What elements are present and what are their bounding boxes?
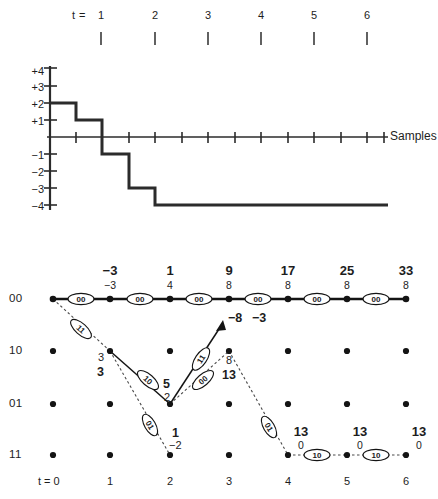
metric-10-t1-primary: 3 xyxy=(98,352,104,363)
metric-10-t1-secondary: 3 xyxy=(97,366,104,379)
metric-11-t6-secondary: 0 xyxy=(406,440,432,451)
metric-01-t2-secondary: 2 xyxy=(164,392,170,403)
trellis-time-axis-label-4: 4 xyxy=(280,476,296,487)
metric-11-t2-secondary: −2 xyxy=(169,440,182,451)
waveform-staircase xyxy=(50,103,388,205)
metric-00-t2-secondary: 4 xyxy=(157,280,183,291)
metric-11-t2-primary: 1 xyxy=(172,427,179,440)
metric-11-t6-primary: 13 xyxy=(406,425,432,438)
branch-bubble-00-b: 00 xyxy=(127,293,153,304)
branch-bubble-10-a: 10 xyxy=(135,367,162,393)
svg-text:00: 00 xyxy=(372,295,381,304)
metric-10-t3-primary: 8 xyxy=(226,355,232,366)
branch-bubble-00-c: 00 xyxy=(186,293,212,304)
arrow-annotation-secondary: −3 xyxy=(252,312,266,325)
trellis-branch-arrowhead xyxy=(216,320,226,331)
svg-text:00: 00 xyxy=(77,295,86,304)
metric-01-t2-primary: 5 xyxy=(163,378,170,391)
metric-00-t6-secondary: 8 xyxy=(393,280,419,291)
branch-bubble-00-a: 00 xyxy=(68,293,94,304)
branch-bubble-00-e: 00 xyxy=(304,293,330,304)
svg-text:10: 10 xyxy=(313,451,322,460)
svg-text:00: 00 xyxy=(254,295,263,304)
branch-bubble-01-a: 01 xyxy=(139,412,160,438)
metric-00-t1-secondary: −3 xyxy=(97,280,123,291)
svg-text:00: 00 xyxy=(313,295,322,304)
trellis-state-label-10: 10 xyxy=(9,345,23,357)
branch-bubble-00-d: 00 xyxy=(245,293,271,304)
metric-10-t3-secondary: 13 xyxy=(222,369,236,382)
metric-00-t1-primary: −3 xyxy=(97,264,123,277)
trellis-time-axis-label-5: 5 xyxy=(339,476,355,487)
metric-11-t4-primary: 13 xyxy=(288,425,314,438)
trellis-state-label-01: 01 xyxy=(9,398,23,410)
trellis-time-axis-label-1: 1 xyxy=(102,476,118,487)
trellis-time-axis-label-6: 6 xyxy=(398,476,414,487)
trellis-state-label-11: 11 xyxy=(9,449,22,461)
trellis-time-axis-label-3: 3 xyxy=(221,476,237,487)
metric-00-t2-primary: 1 xyxy=(157,264,183,277)
branch-bubble-00-g: 00 xyxy=(190,367,217,393)
svg-text:00: 00 xyxy=(136,295,145,304)
metric-00-t5-primary: 25 xyxy=(334,264,360,277)
arrow-annotation-primary: −8 xyxy=(228,312,242,325)
branch-bubble-01-b: 01 xyxy=(258,414,279,440)
trellis-time-axis-origin: t = 0 xyxy=(38,476,60,487)
metric-00-t3-secondary: 8 xyxy=(216,280,242,291)
svg-text:00: 00 xyxy=(195,295,204,304)
branch-bubble-11-b: 11 xyxy=(189,345,213,373)
trellis-time-axis-label-2: 2 xyxy=(162,476,178,487)
t-marker-ticks xyxy=(101,32,367,45)
metric-11-t4-secondary: 0 xyxy=(288,440,314,451)
trellis-state-label-00: 00 xyxy=(9,293,23,305)
metric-11-t5-secondary: 0 xyxy=(347,440,373,451)
metric-00-t4-secondary: 8 xyxy=(275,280,301,291)
branch-bubble-11-a: 11 xyxy=(68,316,95,342)
metric-00-t5-secondary: 8 xyxy=(334,280,360,291)
branch-bubble-10-b: 10 xyxy=(304,449,330,460)
svg-text:10: 10 xyxy=(372,451,381,460)
metric-00-t6-primary: 33 xyxy=(393,264,419,277)
figure-root: t = 1 2 3 4 5 6 +4 +3 +2 +1 −1 −2 −3 −4 … xyxy=(0,0,438,499)
metric-00-t3-primary: 9 xyxy=(216,264,242,277)
branch-bubble-10-c: 10 xyxy=(363,449,389,460)
metric-11-t5-primary: 13 xyxy=(347,425,373,438)
branch-bubble-00-f: 00 xyxy=(363,293,389,304)
metric-00-t4-primary: 17 xyxy=(275,264,301,277)
